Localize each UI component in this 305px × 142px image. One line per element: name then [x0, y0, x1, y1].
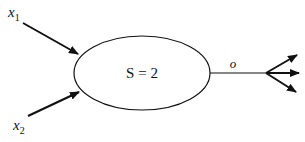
output-arrow-down	[266, 73, 296, 92]
input-arrow-x1	[23, 23, 78, 54]
neuron-diagram: x1 x2 S = 2 o	[0, 0, 305, 142]
output-arrow-up	[266, 55, 297, 73]
node-label: S = 2	[126, 65, 158, 81]
output-label: o	[230, 56, 237, 71]
input-label-x2: x2	[12, 117, 25, 136]
input-label-x1: x1	[7, 4, 20, 23]
input-arrow-x2	[28, 92, 79, 116]
